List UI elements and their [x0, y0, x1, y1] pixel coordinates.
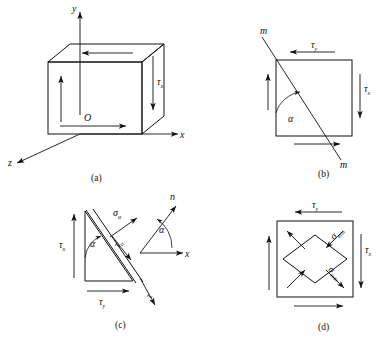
svg-text:τy: τy	[99, 296, 106, 309]
svg-text:τx: τx	[59, 239, 66, 252]
panel-c-caption: (c)	[115, 320, 126, 331]
svg-text:τx: τx	[157, 76, 164, 89]
angle-label-c: α	[90, 238, 96, 249]
panel-c-tangent-label: τ	[143, 291, 154, 300]
cube-front-face	[48, 62, 142, 134]
stress-element-figure: y x z O τx (a) m m α	[0, 0, 384, 337]
sigma-alpha-arrow	[110, 218, 137, 237]
diagonal-arrow-upper-left	[287, 231, 305, 249]
svg-text:τx: τx	[364, 83, 371, 96]
axis-z-line	[17, 134, 80, 163]
panel-b: m m α τy τx (b)	[260, 25, 371, 180]
section-label-m-bottom: m	[340, 159, 347, 170]
panel-b-tau-x-label: τx	[364, 83, 371, 96]
section-label-m-top: m	[260, 25, 267, 36]
panel-d-caption: (d)	[318, 322, 329, 333]
normal-axis-n	[140, 206, 176, 253]
panel-c: τx τy σα τα α n x α τ (c)	[59, 191, 190, 331]
panel-d-tau-x-label: τx	[365, 244, 372, 257]
tau-alpha-arrow	[112, 236, 131, 260]
square-b	[276, 60, 352, 136]
angle-label-b: α	[288, 113, 294, 124]
panel-c-tau-x-label: τx	[59, 239, 66, 252]
diagonal-arrow-lower-left	[287, 270, 305, 288]
origin-label: O	[84, 112, 91, 123]
panel-a: y x z O τx (a)	[7, 3, 185, 184]
svg-text:σα: σα	[113, 207, 122, 220]
panel-c-tau-y-label: τy	[99, 296, 106, 309]
svg-text:τx: τx	[365, 244, 372, 257]
panel-d-sigma-min-label: σmin	[328, 224, 347, 243]
panel-b-tau-y-label: τy	[311, 39, 318, 52]
angle-arc-b	[276, 92, 300, 113]
panel-d: τy τx σmin σmax (d)	[269, 199, 372, 333]
normal-axis-n-label: n	[170, 191, 175, 202]
reference-axis-x-label: x	[184, 248, 190, 259]
panel-a-caption: (a)	[91, 173, 102, 184]
panel-d-tau-y-label: τy	[312, 199, 319, 212]
panel-b-caption: (b)	[318, 169, 329, 180]
svg-text:τy: τy	[311, 39, 318, 52]
axis-x-label: x	[179, 129, 185, 140]
tangent-direction-arrow	[140, 278, 155, 305]
axis-y-label: y	[71, 3, 77, 14]
angle-label-c-axis: α	[159, 224, 165, 235]
panel-a-tau-x-label: τx	[157, 76, 164, 89]
axis-z-label: z	[7, 157, 12, 168]
section-line-mm	[262, 37, 341, 160]
panel-c-sigma-alpha-label: σα	[113, 207, 122, 220]
svg-text:τ: τ	[143, 291, 154, 300]
svg-text:τy: τy	[312, 199, 319, 212]
svg-text:σmin: σmin	[328, 224, 347, 243]
